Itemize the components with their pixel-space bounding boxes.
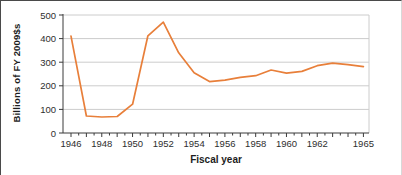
x-tick-label: 1965: [353, 138, 374, 149]
y-tick-label: 200: [40, 80, 56, 91]
gridlines: [63, 15, 369, 133]
x-axis-labels: 1946194819501952195419561958196019621965: [60, 138, 374, 149]
y-axis-ticks: 0100200300400500: [40, 10, 63, 139]
x-tick-label: 1948: [91, 138, 112, 149]
y-tick-label: 100: [40, 104, 56, 115]
y-tick-label: 500: [40, 10, 56, 21]
y-tick-label: 0: [51, 128, 56, 139]
x-tick-label: 1962: [307, 138, 328, 149]
x-tick-label: 1958: [245, 138, 266, 149]
defense-spending-figure: 0100200300400500194619481950195219541956…: [0, 0, 402, 175]
line-chart: 0100200300400500194619481950195219541956…: [1, 1, 402, 175]
y-axis-title: Billions of FY 2009$s: [11, 18, 23, 128]
defense-spending-line: [71, 22, 363, 117]
x-tick-label: 1950: [122, 138, 143, 149]
x-axis-title: Fiscal year: [63, 154, 369, 165]
axes: [63, 14, 369, 133]
x-axis-ticks: [71, 133, 363, 137]
y-tick-label: 300: [40, 57, 56, 68]
x-tick-label: 1952: [153, 138, 174, 149]
x-tick-label: 1960: [276, 138, 297, 149]
y-tick-label: 400: [40, 33, 56, 44]
x-tick-label: 1954: [184, 138, 205, 149]
x-tick-label: 1956: [214, 138, 235, 149]
x-tick-label: 1946: [60, 138, 81, 149]
